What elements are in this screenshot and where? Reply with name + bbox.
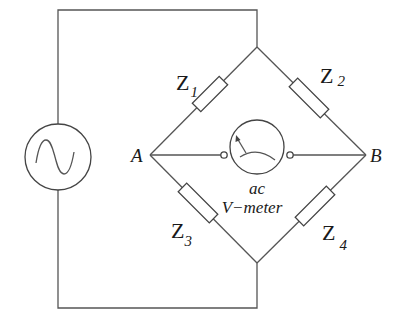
meter-label-ac: ac [249, 179, 266, 198]
meter-dial-circle [230, 120, 284, 174]
z3-resistor-icon [178, 183, 218, 223]
meter-terminal-right [287, 152, 293, 158]
node-label-a: A [129, 145, 143, 166]
voltmeter-branch [150, 120, 366, 174]
ac-source [25, 124, 91, 190]
z4-label: Z4 [322, 220, 347, 253]
meter-terminal-left [221, 152, 227, 158]
z1-label: Z1 [176, 70, 198, 100]
top-supply-wire [58, 10, 257, 124]
meter-label-vmeter: V−meter [222, 198, 283, 217]
ac-source-circle [25, 124, 91, 190]
node-label-b: B [370, 145, 382, 166]
z2-label: Z2 [320, 63, 345, 89]
impedance-z3 [178, 183, 218, 223]
z3-label: Z3 [171, 218, 192, 249]
ac-bridge-diagram: A B Z1 Z2 Z3 Z4 ac V−meter [0, 0, 401, 324]
